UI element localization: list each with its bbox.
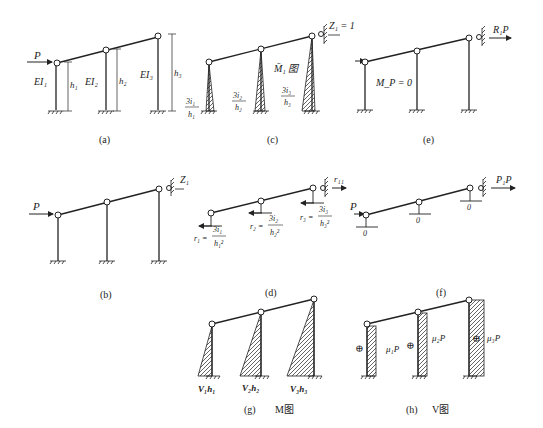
diagram-title-g: M图 — [275, 404, 294, 415]
panel-g: V₁h₁ V₂h₂ V₃h₃ (g) M图 — [198, 296, 322, 416]
height-1: h₁ — [70, 80, 78, 90]
moment-2-value: V₂h₂ — [242, 383, 259, 393]
shear-2-den: h₂² — [270, 228, 280, 237]
load-label: P — [33, 49, 41, 61]
structural-frame-diagram: P EI₁ EI₂ EI₃ h₁ h₂ h₃ (a) — [0, 0, 543, 428]
shear-2-value: 0 — [416, 216, 420, 225]
plus-sign-icon: ⊕ — [355, 343, 363, 354]
chain-link-icon — [477, 35, 482, 40]
caption-h: (h) — [406, 404, 418, 416]
moment-3-num: 3i₃ — [281, 86, 291, 95]
panel-f: P 0 0 0 P₁P (f) — [349, 174, 515, 299]
reaction-label: R₁P — [492, 24, 509, 35]
shear-1-num: 3i₁ — [212, 225, 222, 234]
moment-zero-label: M_P = 0 — [375, 77, 412, 88]
reaction-label: r₁₁ — [334, 174, 344, 184]
stiffness-1: EI₁ — [33, 76, 47, 87]
chain-link-icon — [319, 32, 324, 37]
fixed-support-icon — [483, 177, 486, 197]
shear-2-value: μ₂P — [431, 333, 446, 343]
moment-1-num: 3i₁ — [185, 97, 195, 106]
height-2: h₂ — [119, 76, 127, 86]
panel-h: ⊕ ⊕ ⊕ μ₁P μ₂P μ₃P (h) V图 — [355, 297, 501, 416]
caption-c: (c) — [267, 134, 278, 146]
panel-c: Z₁ = 1 M̄₁ 图 3i₁ h₁ 3i₂ h₂ 3i₃ h₃ (c) — [185, 20, 355, 146]
unit-disp-label: Z₁ = 1 — [329, 20, 355, 31]
diagram-title: M̄₁ 图 — [273, 63, 300, 74]
fixed-support-icon — [482, 26, 485, 46]
panel-a: P EI₁ EI₂ EI₃ h₁ h₂ h₃ (a) — [27, 33, 182, 146]
caption-d: (d) — [265, 287, 277, 299]
diagram-title-h: V图 — [432, 404, 449, 415]
shear-3-value: μ₃P — [486, 333, 501, 343]
caption-b: (b) — [100, 289, 112, 301]
height-3: h₃ — [174, 68, 182, 78]
moment-2-den: h₂ — [235, 103, 242, 112]
caption-g: (g) — [244, 404, 256, 416]
unknown-label: Z₁ — [180, 174, 189, 185]
shear-2-num: 3i₂ — [268, 214, 278, 223]
panel-d: r₁₁ r₁ = 3i₁ h₁² r₂ = 3i₂ h₂² r₃ = 3i₃ h… — [194, 174, 346, 299]
shear-3-num: 3i₃ — [318, 205, 328, 214]
shear-2-lhs: r₂ = — [250, 222, 263, 231]
shear-1-value: 0 — [363, 229, 367, 238]
stiffness-2: EI₂ — [84, 76, 98, 87]
plus-sign-icon: ⊕ — [406, 340, 414, 351]
load-label: P — [349, 200, 357, 212]
plus-sign-icon: ⊕ — [472, 333, 480, 344]
reaction-label: P₁P — [495, 174, 512, 185]
fixed-support-icon — [325, 177, 328, 197]
shear-1-den: h₁² — [214, 239, 224, 248]
moment-3-den: h₃ — [284, 98, 291, 107]
shear-3-value: 0 — [467, 203, 471, 212]
caption-e: (e) — [423, 134, 434, 146]
load-label: P — [32, 200, 40, 212]
shear-3-den: h₃² — [320, 219, 330, 228]
caption-f: (f) — [436, 287, 446, 299]
shear-1-value: μ₁P — [385, 344, 400, 354]
panel-b: P Z₁ (b) — [29, 174, 189, 301]
moment-3-value: V₃h₃ — [290, 384, 307, 394]
moment-1-value: V₁h₁ — [198, 384, 215, 394]
caption-a: (a) — [99, 134, 110, 146]
panel-e: R₁P M_P = 0 (e) — [355, 24, 511, 146]
stiffness-3: EI₃ — [139, 69, 153, 80]
moment-2-num: 3i₂ — [232, 91, 242, 100]
shear-1-lhs: r₁ = — [194, 234, 207, 243]
moment-1-den: h₁ — [188, 110, 195, 119]
fixed-support-icon — [324, 24, 327, 44]
shear-3-lhs: r₃ = — [300, 213, 313, 222]
